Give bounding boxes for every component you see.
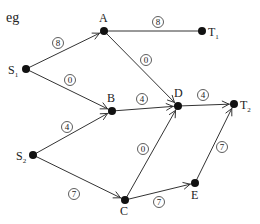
edge-e-t2 [195,104,234,183]
node-dot-icon [29,151,37,159]
node-dot-icon [22,65,30,73]
node-s2: S2 [16,149,37,165]
edge-line [195,104,234,183]
node-dot-icon [230,100,238,108]
weight-value: 7 [220,142,225,152]
edge-weight-s2-b: 4 [62,122,73,133]
edge-weight-c-d: 0 [138,144,149,155]
node-d: D [174,86,183,110]
edge-weight-s1-b: 0 [65,75,76,86]
weight-value: 7 [72,189,77,199]
weight-value: 4 [65,122,70,132]
edge-weight-s1-a: 8 [53,38,64,49]
edge-line [26,31,104,69]
weight-value: 4 [201,90,206,100]
node-label: T1 [208,25,219,41]
node-b: B [107,91,116,115]
node-s1: S1 [8,63,30,79]
node-label: D [174,86,183,100]
weight-value: 0 [141,144,146,154]
node-dot-icon [108,107,116,115]
node-t1: T1 [198,25,219,41]
node-e: E [191,179,199,202]
weights-group: 80804447077 [53,17,228,208]
node-dot-icon [174,102,182,110]
edge-c-d [125,106,178,200]
node-dot-icon [198,27,206,35]
weight-value: 8 [156,17,161,27]
edge-line [125,106,178,200]
edge-s1-a [26,31,104,69]
edge-weight-d-t2: 4 [198,90,209,101]
node-dot-icon [121,196,129,204]
node-label: T2 [240,98,251,114]
node-c: C [120,196,129,218]
weight-value: 0 [68,75,73,85]
edges-group [26,31,234,200]
node-label: B [107,91,115,105]
weight-value: 7 [157,197,162,207]
edge-weight-e-t2: 7 [217,142,228,153]
weight-value: 0 [144,55,149,65]
node-dot-icon [191,179,199,187]
nodes-group: S1AT1BDT2S2CE [8,11,251,218]
node-label: E [191,188,198,202]
edge-d-t2 [178,101,234,108]
network-diagram: eg 80804447077 S1AT1BDT2S2CE [0,0,260,224]
edge-line [112,106,178,111]
edge-s2-b [33,111,112,155]
weight-value: 8 [56,38,61,48]
edge-weight-a-t1: 8 [153,17,164,28]
edge-weight-a-d: 0 [141,55,152,66]
node-a: A [99,11,108,35]
edge-b-d [112,103,178,111]
edge-weight-s2-c: 7 [69,189,80,200]
node-label: S2 [16,149,27,165]
edge-line [33,111,112,155]
node-dot-icon [100,27,108,35]
edge-weight-c-e: 7 [154,197,165,208]
node-label: A [99,11,108,25]
diagram-title: eg [6,10,19,25]
weight-value: 4 [140,94,145,104]
node-label: C [120,204,128,218]
node-t2: T2 [230,98,251,114]
edge-weight-b-d: 4 [137,94,148,105]
node-label: S1 [8,63,19,79]
